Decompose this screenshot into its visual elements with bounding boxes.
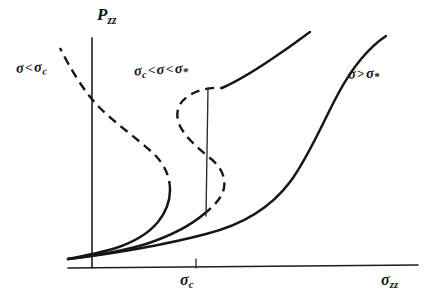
curve-supercritical <box>68 36 386 259</box>
annotation-subcritical-limit-subscript: c <box>42 65 47 76</box>
x-axis-line <box>68 265 418 268</box>
annotation-supercritical: σ>σ* <box>348 65 381 84</box>
y-axis-label-subscript: zz <box>108 14 117 27</box>
annotation-intermediate-upper-subscript: * <box>183 66 189 78</box>
annotation-intermediate-lower: σ <box>134 62 143 78</box>
curve-intermediate-lower-solid <box>68 214 204 259</box>
annotation-intermediate-relation-left: < <box>147 62 155 77</box>
x-axis-label-symbol: σ <box>381 271 390 288</box>
annotation-intermediate-lower-subscript: c <box>142 69 147 80</box>
x-axis-tick-label-sigma-c: σc <box>180 272 194 290</box>
annotation-subcritical: σ<σc <box>16 59 47 78</box>
y-axis-label: Pzz <box>97 6 117 26</box>
annotation-intermediate-upper: σ <box>174 60 183 76</box>
maxwell-tie-line <box>206 88 208 216</box>
annotation-supercritical-relation: > <box>357 66 365 81</box>
annotation-intermediate-sigma: σ <box>156 61 165 77</box>
x-axis-label: σzz <box>381 272 398 290</box>
curve-intermediate-upper-solid <box>222 32 310 88</box>
annotation-intermediate: σc<σ<σ* <box>134 61 189 82</box>
curve-intermediate-dashed <box>177 88 224 214</box>
annotation-subcritical-relation: < <box>25 60 33 75</box>
plot-canvas <box>0 0 428 307</box>
figure-container: Pzz σzz σc σ<σc σc<σ<σ* σ>σ* <box>0 0 428 307</box>
annotation-supercritical-sigma: σ <box>348 65 357 81</box>
annotation-intermediate-relation-right: < <box>165 61 173 76</box>
tick-label-subscript: c <box>189 278 194 290</box>
curve-subcritical-solid <box>68 190 170 259</box>
annotation-subcritical-sigma: σ <box>16 59 25 75</box>
x-axis-label-subscript: zz <box>390 278 398 290</box>
annotation-supercritical-limit-subscript: * <box>374 71 380 83</box>
tick-label-symbol: σ <box>180 271 189 288</box>
y-axis-label-symbol: P <box>97 5 107 24</box>
